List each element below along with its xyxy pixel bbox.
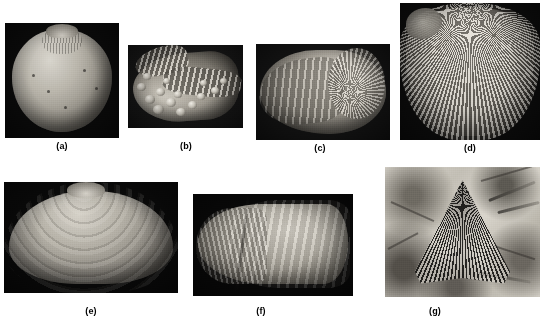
panel-label-g: (g) (429, 306, 441, 316)
surface-speck (47, 90, 50, 93)
panel-e (4, 182, 178, 293)
growth-lines-e (4, 182, 178, 293)
surface-speck (83, 69, 86, 72)
panel-label-f: (f) (256, 306, 265, 316)
shell-specimen-a (12, 29, 112, 133)
panel-label-c: (c) (314, 143, 325, 153)
nodule (145, 95, 155, 104)
panel-d-photo (400, 3, 540, 140)
nodule (163, 78, 170, 84)
anterior-ribs-f (196, 208, 266, 283)
panel-c-photo (256, 44, 390, 140)
panel-g (385, 167, 540, 297)
fossil-shell-plate: (a) (b) (0, 0, 551, 318)
coil-whorl-c (328, 48, 384, 119)
panel-label-d: (d) (464, 143, 476, 153)
nodule (153, 105, 164, 114)
nodule (166, 98, 176, 107)
panel-label-e: (e) (85, 306, 96, 316)
panel-label-a: (a) (56, 141, 67, 151)
umbo-a (46, 24, 78, 38)
panel-b-photo (128, 45, 243, 128)
panel-e-photo (4, 182, 178, 293)
panel-d (400, 3, 540, 140)
panel-c (256, 44, 390, 140)
panel-g-photo (385, 167, 540, 297)
panel-f (193, 194, 353, 296)
panel-a (5, 23, 119, 138)
panel-label-b: (b) (180, 141, 192, 151)
panel-f-photo (193, 194, 353, 296)
panel-a-photo (5, 23, 119, 138)
panel-b (128, 45, 243, 128)
nodule (156, 88, 165, 96)
nodule (211, 87, 219, 94)
umbo-e (67, 182, 105, 198)
